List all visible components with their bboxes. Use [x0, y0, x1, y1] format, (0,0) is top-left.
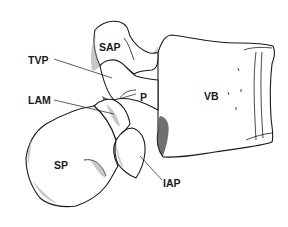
label-tvp: TVP	[28, 54, 48, 66]
label-vb: VB	[204, 90, 219, 102]
iap-leader-line	[140, 156, 162, 180]
vertebra-diagram: SAP TVP LAM P VB SP IAP	[0, 0, 288, 227]
label-lam: LAM	[28, 94, 51, 106]
label-sap: SAP	[99, 41, 121, 53]
inferior-articular-process-shape	[115, 128, 145, 178]
label-sp: SP	[54, 159, 68, 171]
label-p: P	[140, 91, 147, 103]
label-iap: IAP	[163, 177, 181, 189]
